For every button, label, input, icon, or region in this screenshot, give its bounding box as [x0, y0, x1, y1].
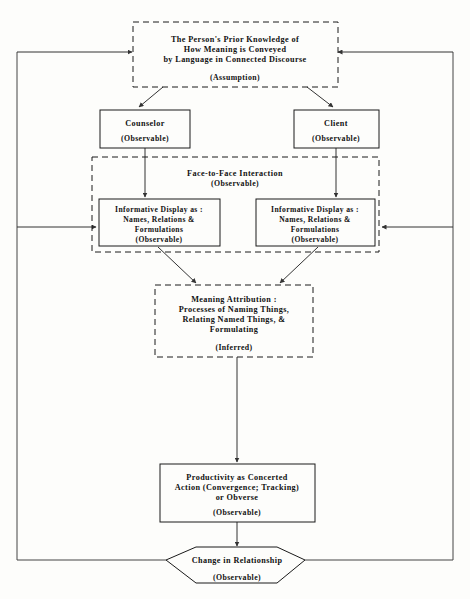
node-meaning-attribution: Meaning Attribution : Processes of Namin… — [155, 285, 313, 357]
flowchart-canvas: The Person's Prior Knowledge of How Mean… — [0, 0, 470, 599]
assumption-line-3: by Language in Connected Discourse — [163, 55, 306, 64]
display-left-line-2: Names, Relations & — [123, 215, 195, 224]
node-informative-display-right: Informative Display as : Names, Relation… — [256, 199, 375, 246]
meaning-line-3: Relating Named Things, & — [182, 315, 285, 324]
display-left-tag: (Observable) — [136, 235, 183, 244]
productivity-line-3: or Obverse — [216, 493, 259, 502]
change-label: Change in Relationship — [192, 556, 283, 565]
display-left-line-1: Informative Display as : — [115, 205, 203, 214]
meaning-line-4: Formulating — [210, 325, 259, 334]
node-productivity: Productivity as Concerted Action (Conver… — [160, 464, 315, 522]
node-counselor: Counselor (Observable) — [100, 110, 190, 148]
interaction-tag: (Observable) — [211, 179, 259, 188]
assumption-line-1: The Person's Prior Knowledge of — [171, 35, 299, 44]
productivity-line-2: Action (Convergence; Tracking) — [175, 483, 299, 492]
node-informative-display-left: Informative Display as : Names, Relation… — [99, 199, 220, 246]
meaning-line-1: Meaning Attribution : — [191, 295, 277, 304]
assumption-tag: (Assumption) — [210, 73, 260, 82]
client-tag: (Observable) — [312, 134, 360, 143]
display-left-line-3: Formulations — [135, 225, 184, 234]
display-right-line-2: Names, Relations & — [279, 215, 351, 224]
connector-assumption-to-actors — [139, 87, 333, 107]
node-assumption: The Person's Prior Knowledge of How Mean… — [133, 22, 338, 87]
node-change-in-relationship: Change in Relationship (Observable) — [166, 547, 305, 583]
display-right-tag: (Observable) — [292, 235, 339, 244]
productivity-tag: (Observable) — [213, 508, 261, 517]
flowchart-diagram: The Person's Prior Knowledge of How Mean… — [0, 0, 470, 599]
display-right-line-3: Formulations — [291, 225, 340, 234]
counselor-label: Counselor — [125, 119, 165, 128]
meaning-tag: (Inferred) — [215, 343, 252, 352]
meaning-line-2: Processes of Naming Things, — [179, 305, 290, 314]
feedback-loop-left — [17, 52, 166, 560]
change-tag: (Observable) — [213, 573, 261, 582]
node-client: Client (Observable) — [294, 110, 379, 148]
interaction-label: Face-to-Face Interaction — [187, 169, 283, 178]
display-right-line-1: Informative Display as : — [271, 205, 359, 214]
counselor-tag: (Observable) — [121, 134, 169, 143]
productivity-line-1: Productivity as Concerted — [186, 473, 287, 482]
assumption-line-2: How Meaning is Conveyed — [184, 45, 287, 54]
client-label: Client — [324, 119, 348, 128]
